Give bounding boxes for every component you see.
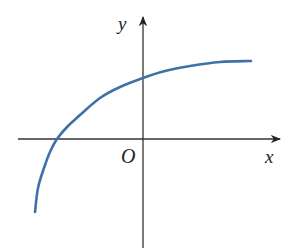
origin-label: O	[121, 146, 135, 166]
function-graph	[0, 0, 293, 248]
y-axis-label: y	[118, 14, 126, 33]
x-axis-label: x	[265, 147, 273, 166]
